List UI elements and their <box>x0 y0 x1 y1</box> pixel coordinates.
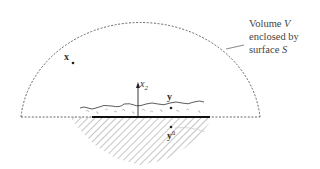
point-y-image-label: yū <box>167 129 175 141</box>
annotation-volume-var: V <box>284 18 290 29</box>
point-x-label-text: x <box>64 51 69 62</box>
annotation-enclosed-by: enclosed by <box>249 31 299 42</box>
volume-annotation: Volume V enclosed by surface S <box>249 17 299 56</box>
annotation-surface-word: surface <box>249 44 279 55</box>
annotation-leader-line <box>226 45 244 49</box>
x2-axis-subscript: 2 <box>144 84 148 92</box>
point-x-dot <box>72 62 75 65</box>
point-y-dot <box>170 107 173 110</box>
annotation-line-1: Volume V <box>249 17 299 30</box>
point-y-image-dot <box>170 126 173 129</box>
point-y-image-superscript: ū <box>172 129 175 136</box>
annotation-volume-word: Volume <box>249 18 281 29</box>
surface-s-boundary <box>21 22 260 117</box>
annotation-line-3: surface S <box>249 43 299 56</box>
point-y-label: y <box>167 91 172 102</box>
layer-particles <box>86 109 200 114</box>
annotation-line-2: enclosed by <box>249 30 299 43</box>
annotation-surface-var: S <box>282 44 287 55</box>
point-y-label-text: y <box>167 91 172 102</box>
x2-axis-label: x2 <box>140 78 148 92</box>
wavy-layer-boundary <box>80 101 204 109</box>
point-x-label: x <box>64 51 69 62</box>
hatched-region <box>60 117 220 169</box>
